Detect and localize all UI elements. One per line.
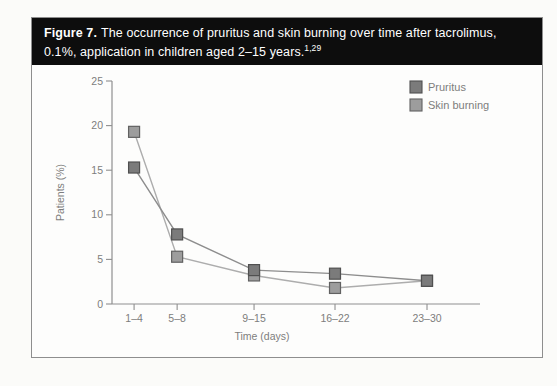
- pruritus-marker: [172, 229, 183, 240]
- y-tick-label: 0: [97, 298, 103, 310]
- y-axis-title: Patients (%): [54, 164, 66, 221]
- x-tick-label: 5–8: [168, 312, 186, 324]
- x-tick-label: 9–15: [242, 312, 266, 324]
- figure-reference: 1,29: [304, 43, 321, 53]
- x-tick-label: 23–30: [412, 312, 441, 324]
- chart-area: 05101520251–45–89–1516–2223–30Patients (…: [32, 65, 542, 357]
- pruritus-marker: [422, 275, 433, 286]
- legend-swatch-skin-burning: [410, 99, 422, 111]
- figure-caption-text: The occurrence of pruritus and skin burn…: [44, 26, 496, 59]
- x-tick-label: 1–4: [125, 312, 143, 324]
- pruritus-line: [134, 168, 427, 281]
- legend-label-pruritus: Pruritus: [428, 81, 466, 93]
- legend-swatch-pruritus: [410, 81, 422, 93]
- pruritus-marker: [249, 265, 260, 276]
- pruritus-marker: [129, 162, 140, 173]
- legend-label-skin-burning: Skin burning: [428, 99, 489, 111]
- skin-burning-line: [134, 132, 427, 288]
- y-tick-label: 5: [97, 253, 103, 265]
- y-tick-label: 15: [91, 164, 103, 176]
- y-tick-label: 10: [91, 208, 103, 220]
- figure-caption: Figure 7.The occurrence of pruritus and …: [32, 18, 542, 65]
- x-tick-label: 16–22: [320, 312, 349, 324]
- figure-box: Figure 7.The occurrence of pruritus and …: [31, 17, 543, 358]
- chart-svg: 05101520251–45–89–1516–2223–30Patients (…: [32, 65, 542, 357]
- skin-burning-marker: [129, 126, 140, 137]
- figure-label: Figure 7.: [44, 26, 97, 40]
- skin-burning-marker: [172, 251, 183, 262]
- page: { "figure": { "label": "Figure 7.", "cap…: [0, 0, 557, 386]
- pruritus-marker: [330, 268, 341, 279]
- skin-burning-marker: [330, 282, 341, 293]
- x-axis-title: Time (days): [234, 330, 289, 342]
- y-tick-label: 20: [91, 119, 103, 131]
- y-tick-label: 25: [91, 75, 103, 87]
